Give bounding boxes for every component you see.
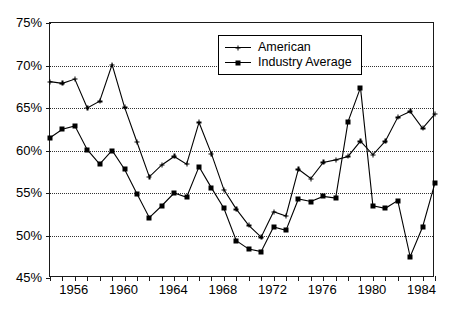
plot-area: American Industry Average [49, 22, 434, 277]
data-point [333, 196, 338, 201]
data-point [85, 147, 90, 152]
data-point [147, 174, 152, 179]
legend-item-industry-average: Industry Average [225, 55, 352, 70]
x-tick-label-1964: 1964 [159, 282, 188, 297]
y-tick-label-75: 75% [16, 15, 42, 30]
data-point [420, 126, 425, 131]
data-point [72, 77, 77, 82]
x-tick-label-1972: 1972 [258, 282, 287, 297]
data-point [110, 62, 115, 67]
y-tick-label-65: 65% [16, 100, 42, 115]
data-point [395, 115, 400, 120]
data-point [246, 247, 251, 252]
data-point [383, 139, 388, 144]
american-marker-icon [225, 42, 251, 54]
data-point [221, 206, 226, 211]
data-point [321, 160, 326, 165]
data-point [234, 207, 239, 212]
data-point [122, 167, 127, 172]
y-tick-label-55: 55% [16, 185, 42, 200]
x-tick-1985 [435, 276, 436, 281]
data-point [48, 79, 53, 84]
line-chart-figure: 45%50%55%60%65%70%75% 195619601964196819… [0, 0, 455, 319]
data-point [209, 185, 214, 190]
x-tick-label-1976: 1976 [308, 282, 337, 297]
data-point [308, 199, 313, 204]
x-tick-label-1960: 1960 [109, 282, 138, 297]
series-line-american [50, 65, 435, 238]
data-point [283, 228, 288, 233]
data-point [321, 194, 326, 199]
data-point [97, 99, 102, 104]
data-point [395, 198, 400, 203]
data-point [197, 164, 202, 169]
data-point [159, 162, 164, 167]
data-point [346, 154, 351, 159]
data-point [246, 223, 251, 228]
data-point [308, 176, 313, 181]
data-point [433, 111, 438, 116]
data-point [72, 123, 77, 128]
data-point [48, 135, 53, 140]
x-tick-label-1968: 1968 [208, 282, 237, 297]
data-point [97, 162, 102, 167]
data-point [172, 154, 177, 159]
data-point [346, 119, 351, 124]
industry-average-marker-icon [225, 57, 251, 69]
data-point [60, 81, 65, 86]
data-point [259, 235, 264, 240]
data-point [370, 152, 375, 157]
y-tick-label-70: 70% [16, 57, 42, 72]
data-point [172, 191, 177, 196]
data-point [358, 139, 363, 144]
data-point [197, 120, 202, 125]
data-point [184, 162, 189, 167]
data-point [122, 105, 127, 110]
data-point [408, 254, 413, 259]
data-point [184, 195, 189, 200]
data-point [333, 157, 338, 162]
x-tick-label-1956: 1956 [59, 282, 88, 297]
data-point [147, 215, 152, 220]
data-point [383, 206, 388, 211]
data-point [209, 151, 214, 156]
data-point [234, 238, 239, 243]
data-point [60, 127, 65, 132]
legend-item-american: American [225, 40, 352, 55]
data-point [420, 225, 425, 230]
series-line-industry-average [50, 88, 435, 257]
data-point [271, 209, 276, 214]
data-point [283, 213, 288, 218]
data-point [271, 225, 276, 230]
x-tick-label-1980: 1980 [357, 282, 386, 297]
data-point [221, 187, 226, 192]
y-tick-label-50: 50% [16, 227, 42, 242]
data-point [370, 203, 375, 208]
data-point [85, 106, 90, 111]
y-tick-label-45: 45% [16, 270, 42, 285]
data-point [408, 109, 413, 114]
data-point [433, 180, 438, 185]
data-point [134, 140, 139, 145]
legend-label-industry-average: Industry Average [258, 56, 352, 69]
x-tick-label-1984: 1984 [407, 282, 436, 297]
data-point [110, 148, 115, 153]
y-tick-label-60: 60% [16, 142, 42, 157]
chart-legend: American Industry Average [218, 35, 362, 75]
data-point [358, 85, 363, 90]
data-point [259, 249, 264, 254]
legend-label-american: American [258, 41, 311, 54]
data-point [296, 167, 301, 172]
data-point [134, 191, 139, 196]
data-point [296, 196, 301, 201]
data-point [159, 203, 164, 208]
